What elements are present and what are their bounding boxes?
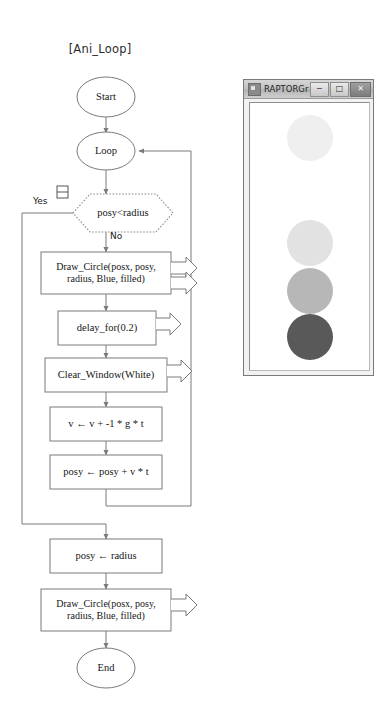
node-reset-posy[interactable] xyxy=(50,539,162,573)
edge-label-no: No xyxy=(110,231,122,241)
node-delay[interactable] xyxy=(58,311,156,345)
flowchart-canvas: [Ani_Loop] xyxy=(0,0,240,721)
close-button[interactable]: ✕ xyxy=(350,82,371,97)
output-arrow-icon xyxy=(167,360,192,382)
node-start[interactable] xyxy=(77,77,135,117)
edge-label-yes: Yes xyxy=(33,196,48,206)
app-icon xyxy=(248,83,261,96)
node-clear-window[interactable] xyxy=(45,358,167,392)
minimize-icon: ─ xyxy=(311,85,328,93)
close-icon: ✕ xyxy=(351,85,370,93)
ball-trail-2 xyxy=(287,220,333,266)
window-titlebar[interactable]: RAPTORGra... ─ □ ✕ xyxy=(244,80,373,99)
node-loop[interactable] xyxy=(77,132,135,170)
maximize-icon: □ xyxy=(331,85,348,93)
node-end[interactable] xyxy=(77,648,135,688)
ball-trail-3 xyxy=(287,268,333,314)
node-position-update[interactable] xyxy=(50,455,162,489)
minimize-button[interactable]: ─ xyxy=(310,82,329,97)
window-title: RAPTORGra... xyxy=(264,84,309,94)
output-arrow-icon xyxy=(171,594,197,616)
node-draw-circle-final[interactable] xyxy=(41,589,171,631)
ball-trail-1 xyxy=(287,115,333,161)
node-decision[interactable] xyxy=(73,194,173,232)
ball-current xyxy=(287,314,333,360)
output-arrow-icon xyxy=(171,272,197,294)
maximize-button[interactable]: □ xyxy=(330,82,349,97)
output-arrow-icon xyxy=(171,257,197,279)
node-draw-circle-in-loop[interactable] xyxy=(41,252,171,294)
graphics-canvas[interactable] xyxy=(249,102,370,371)
raptor-graph-window[interactable]: RAPTORGra... ─ □ ✕ xyxy=(243,79,374,376)
flowchart-graphics xyxy=(0,0,240,721)
node-velocity-update[interactable] xyxy=(50,407,162,441)
output-arrow-icon xyxy=(156,313,181,335)
